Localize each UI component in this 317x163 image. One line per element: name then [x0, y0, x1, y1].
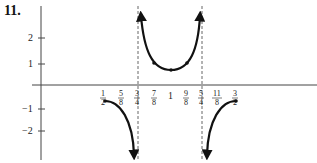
svg-text:3: 3: [135, 89, 139, 98]
right-branch: [207, 101, 236, 155]
svg-text:3: 3: [233, 89, 237, 98]
svg-text:4: 4: [199, 98, 203, 107]
chart: 2 1 −1 −2 12 58 34 78 1 98 54 118 32: [0, 0, 317, 163]
middle-branch: [141, 16, 200, 70]
svg-text:2: 2: [28, 32, 33, 43]
svg-text:8: 8: [119, 98, 123, 107]
svg-text:1: 1: [168, 90, 173, 101]
svg-text:8: 8: [152, 98, 156, 107]
svg-text:5: 5: [199, 89, 203, 98]
svg-text:8: 8: [215, 98, 219, 107]
svg-text:7: 7: [152, 89, 156, 98]
svg-text:−1: −1: [22, 103, 33, 114]
svg-text:4: 4: [135, 98, 139, 107]
svg-text:1: 1: [101, 89, 105, 98]
svg-text:9: 9: [184, 89, 188, 98]
svg-text:11: 11: [213, 89, 221, 98]
left-branch: [105, 101, 134, 155]
y-ticks: 2 1 −1 −2: [22, 32, 45, 136]
svg-text:8: 8: [184, 98, 188, 107]
svg-text:−2: −2: [22, 125, 33, 136]
svg-text:5: 5: [119, 89, 123, 98]
svg-text:1: 1: [28, 58, 33, 69]
x-tick-labels: 12 58 34 78 1 98 54 118 32: [100, 89, 238, 107]
